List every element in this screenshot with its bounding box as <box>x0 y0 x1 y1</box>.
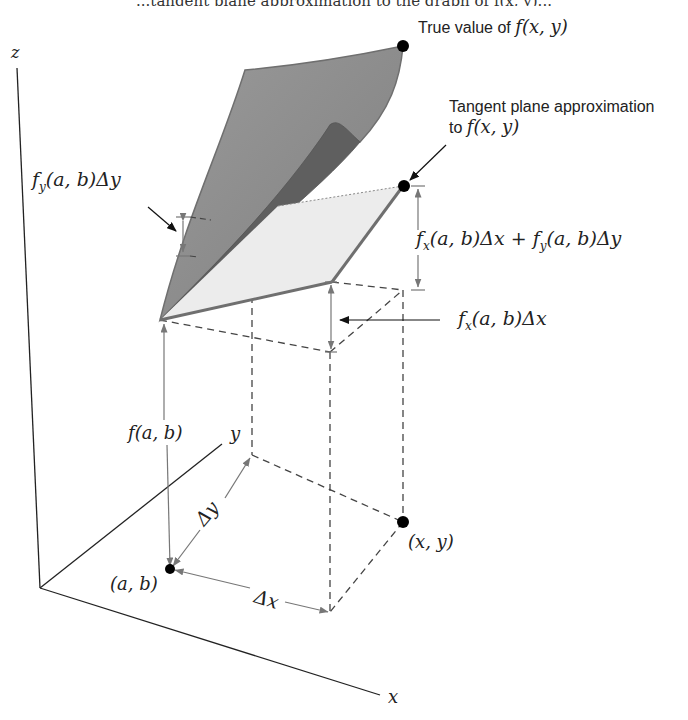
fx-plus-fy-label: fx(a, b)Δx + fy(a, b)Δy <box>414 227 622 253</box>
f-ab-label: f(a, b) <box>126 422 182 443</box>
delta-y-label: Δy <box>190 496 223 530</box>
tangent-label-line2: to f(x, y) <box>449 116 519 137</box>
true-value-label: True value of f(x, y) <box>418 16 568 37</box>
fx-delta-x-label: fx(a, b)Δx <box>456 307 547 333</box>
x-axis <box>40 588 380 695</box>
fy-pointer-arrow <box>148 207 176 231</box>
tangent-plane-diagram: z x y True value of f(x, y) Tangent plan… <box>0 0 688 720</box>
true-value-point <box>397 40 409 52</box>
tangent-label-line1: Tangent plane approximation <box>449 98 654 115</box>
z-axis <box>17 68 40 588</box>
z-axis-label: z <box>10 43 20 62</box>
point-xy-dot <box>397 516 409 528</box>
y-axis-label: y <box>229 423 241 444</box>
tangent-pointer-arrow <box>410 145 446 180</box>
fx-dimension <box>325 282 337 352</box>
point-xy-label: (x, y) <box>408 531 454 552</box>
delta-x-label: Δx <box>251 584 282 613</box>
point-ab-label: (a, b) <box>110 573 158 594</box>
f-ab-dimension <box>164 324 170 566</box>
fy-delta-y-label: fy(a, b)Δy <box>30 168 121 194</box>
tangent-value-point <box>398 180 410 192</box>
base-rectangle <box>252 455 403 612</box>
point-ab-dot <box>165 564 175 574</box>
caption-fragment: ...tangent plane approximation to the gr… <box>0 0 688 6</box>
vertical-dashed-edges <box>252 290 403 612</box>
x-axis-label: x <box>388 686 398 707</box>
